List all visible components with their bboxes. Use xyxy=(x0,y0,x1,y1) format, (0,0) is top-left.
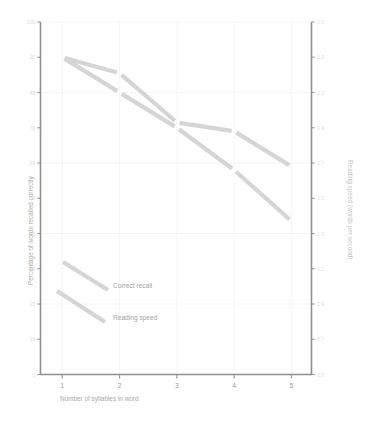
tick-label: 100 xyxy=(27,19,36,25)
tick-label: 4 xyxy=(232,382,236,389)
tick-label: 5 xyxy=(289,382,293,389)
tick-label: 1.5 xyxy=(317,195,324,201)
legend-line-sample xyxy=(63,262,108,290)
tick-label: 0.9 xyxy=(317,301,324,307)
line-chart: 0102030405060708090100 0.50.70.91.11.31.… xyxy=(0,0,366,425)
tick-label: 1 xyxy=(60,382,64,389)
legend-label-reading-speed: Reading speed xyxy=(113,314,158,322)
tick-label: 0.5 xyxy=(317,372,324,378)
tick-label: 2.1 xyxy=(317,90,324,96)
tick-label: 2.5 xyxy=(317,19,324,25)
tick-label: 20 xyxy=(30,301,36,307)
x-axis-title: Number of syllables in word xyxy=(60,395,139,403)
tick-label: 3 xyxy=(175,382,179,389)
tick-label: 1.9 xyxy=(317,125,324,131)
tick-label: 1.3 xyxy=(317,231,324,237)
right-axis-tick-labels: 0.50.70.91.11.31.51.71.92.12.32.5 xyxy=(317,19,324,378)
series-segment xyxy=(236,133,289,166)
legend-label-correct-recall: Correct recall xyxy=(113,282,153,289)
tick-label: 2 xyxy=(118,382,122,389)
tick-label: 1.7 xyxy=(317,160,324,166)
tick-label: 2.3 xyxy=(317,54,324,60)
tick-label: 70 xyxy=(30,125,36,131)
y-axis-title: Percentage of words recalled correctly xyxy=(27,176,35,285)
tick-label: 10 xyxy=(30,336,36,342)
tick-label: 0 xyxy=(33,372,36,378)
x-axis-tick-labels: 12345 xyxy=(60,382,293,389)
legend-line-samples xyxy=(57,262,108,322)
series-segment xyxy=(236,172,289,220)
tick-label: 90 xyxy=(30,54,36,60)
y2-axis-title: Reading speed (words per second) xyxy=(346,160,354,259)
tick-label: 0.7 xyxy=(317,336,324,342)
tick-label: 60 xyxy=(30,160,36,166)
tick-label: 1.1 xyxy=(317,266,324,272)
tick-label: 80 xyxy=(30,90,36,96)
series-segment xyxy=(179,123,231,131)
legend-line-sample xyxy=(57,291,105,322)
gridlines xyxy=(41,22,312,375)
chart-container: 0102030405060708090100 0.50.70.91.11.31.… xyxy=(0,0,366,425)
